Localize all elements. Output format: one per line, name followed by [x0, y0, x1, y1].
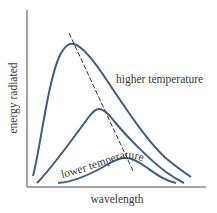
curve-middle-temperature: [37, 109, 184, 183]
label-higher-temperature: higher temperature: [116, 73, 203, 86]
label-lower-temperature: lower temperature: [60, 148, 146, 180]
x-axis-label: wavelength: [90, 193, 143, 206]
blackbody-chart: higher temperature lower temperature wav…: [0, 0, 217, 213]
label-lower-temperature-path: lower temperature: [60, 148, 146, 180]
y-axis-label: energy radiated: [7, 62, 20, 133]
